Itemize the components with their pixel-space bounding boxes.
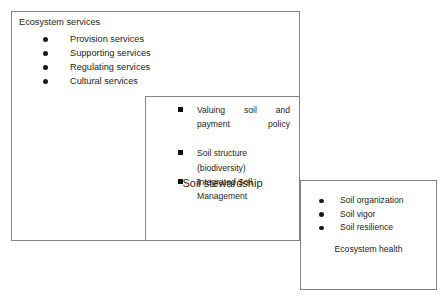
list-item: Soil resilience [315,221,404,235]
box-ecosystem-services-title: Ecosystem services [19,17,100,27]
round-bullet-icon [43,65,48,70]
list-item-label: Soil resilience [340,222,393,232]
list-item: Soil organization [315,194,404,208]
list-item-label: Provision services [70,34,144,44]
box-ecosystem-health-caption: Ecosystem health [301,244,436,254]
list-item-label: Soil structure (biodiversity) [197,148,247,172]
list-item-label: Cultural services [70,76,138,86]
list-item-label: Soil vigor [340,209,375,219]
diagram-canvas: Ecosystem services Provision services Su… [0,0,448,305]
list-item: Regulating services [38,60,151,74]
box-ecosystem-health-list: Soil organization Soil vigor Soil resili… [315,194,404,235]
box-soil-stewardship-caption: Soil stewardship [146,177,299,189]
round-bullet-icon [319,226,324,231]
box-soil-stewardship: Valuing soil and payment policy Soil str… [145,96,300,241]
list-item-label: Supporting services [70,48,151,58]
box-ecosystem-services-list: Provision services Supporting services R… [38,32,151,88]
list-item-label: Valuing soil and payment policy [197,103,290,146]
list-item-label: Soil organization [340,195,404,205]
list-item: Cultural services [38,74,151,88]
box-ecosystem-health: Soil organization Soil vigor Soil resili… [300,180,437,290]
list-item: Valuing soil and payment policy [172,103,290,146]
list-item: Supporting services [38,46,151,60]
list-item-label: Regulating services [70,62,150,72]
list-item: Soil vigor [315,208,404,222]
round-bullet-icon [319,199,324,204]
list-item: Soil structure (biodiversity) [172,146,290,175]
square-bullet-icon [178,107,183,112]
round-bullet-icon [319,212,324,217]
round-bullet-icon [43,37,48,42]
round-bullet-icon [43,79,48,84]
round-bullet-icon [43,51,48,56]
list-item: Provision services [38,32,151,46]
square-bullet-icon [178,150,183,155]
